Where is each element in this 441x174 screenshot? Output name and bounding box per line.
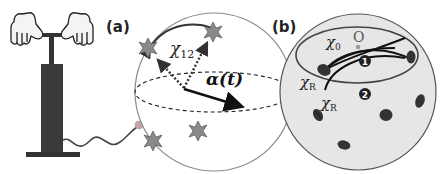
pump-body [41, 64, 63, 154]
path-2-number: 2 [362, 90, 368, 100]
panel-a: (a) χ12 α(t) [106, 13, 293, 171]
pump-base [26, 152, 80, 157]
figure: (a) χ12 α(t) (b) [0, 0, 441, 174]
pump-wire [63, 126, 138, 146]
panel-b-label: (b) [272, 18, 296, 36]
origin-point [356, 45, 360, 49]
path-1-number: 1 [362, 57, 368, 67]
right-hand-icon [61, 13, 93, 46]
alpha-label: α(t) [206, 69, 243, 89]
panel-b: (b) 1 2 χ0 O χR χR [272, 14, 436, 170]
origin-label: O [353, 29, 364, 45]
blob-right [407, 51, 416, 64]
blob [380, 109, 393, 121]
left-hand-icon [11, 13, 43, 46]
panel-a-label: (a) [106, 18, 130, 36]
pump-rod [49, 37, 54, 65]
